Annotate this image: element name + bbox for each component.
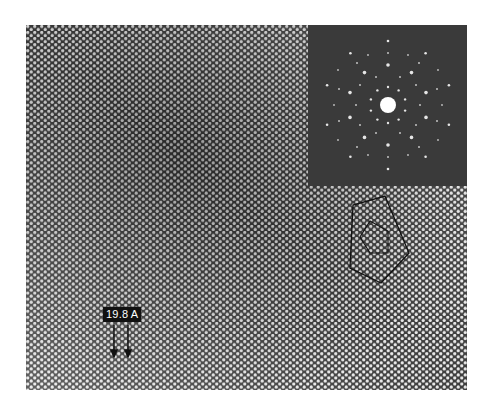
diffraction-pattern (308, 25, 467, 186)
diffraction-inset (308, 25, 467, 186)
scale-label: 19.8 A (103, 307, 141, 322)
micrograph-frame: 19.8 A (26, 25, 467, 390)
